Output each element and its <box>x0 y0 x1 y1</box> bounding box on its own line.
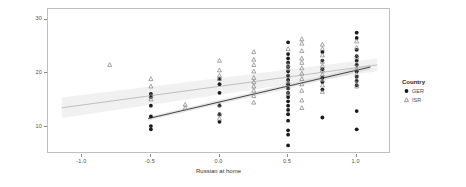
data-point <box>321 116 325 120</box>
data-point <box>300 56 304 60</box>
legend-label: ISR <box>412 97 421 103</box>
legend: Country GERISR <box>402 79 462 105</box>
data-point <box>300 106 304 110</box>
data-point <box>286 57 290 61</box>
data-point <box>286 108 290 112</box>
x-tick-mark <box>287 154 288 157</box>
triangle-icon <box>402 96 411 104</box>
x-tick-mark <box>356 154 357 157</box>
data-point <box>286 99 290 103</box>
data-point <box>217 116 221 120</box>
data-point <box>300 37 304 41</box>
data-point <box>300 88 304 92</box>
data-point <box>320 42 324 46</box>
circle-icon <box>402 87 411 95</box>
legend-items: GERISR <box>402 87 462 104</box>
data-point <box>252 50 256 54</box>
data-point <box>218 82 222 86</box>
legend-label: GER <box>412 88 424 94</box>
y-tick-label: 20 <box>20 69 42 75</box>
data-point <box>108 63 112 67</box>
data-point <box>252 69 256 73</box>
data-point <box>286 133 290 137</box>
data-point <box>252 63 256 67</box>
data-point <box>286 52 290 56</box>
data-point <box>252 100 256 104</box>
data-point <box>149 115 153 119</box>
legend-item-ger[interactable]: GER <box>402 87 462 95</box>
data-point <box>320 83 324 87</box>
y-tick-label: 10 <box>20 123 42 129</box>
x-tick-mark <box>219 154 220 157</box>
data-point <box>252 57 256 61</box>
data-point <box>149 127 153 131</box>
data-point <box>286 128 290 132</box>
x-tick-mark <box>150 154 151 157</box>
data-point <box>286 144 290 148</box>
data-point <box>217 58 221 62</box>
x-tick-label: 1.0 <box>342 158 370 164</box>
y-tick-label: 30 <box>20 15 42 21</box>
data-point <box>286 40 290 44</box>
data-point <box>355 127 359 131</box>
data-point <box>218 91 222 95</box>
data-point <box>286 112 290 116</box>
data-point <box>217 68 221 72</box>
data-point <box>300 61 304 65</box>
data-point <box>286 47 290 51</box>
x-axis-label: Russian at home <box>47 168 390 174</box>
x-tick-label: 0.5 <box>273 158 301 164</box>
x-tick-label: -1.0 <box>67 158 95 164</box>
data-point <box>355 31 359 35</box>
x-tick-label: 0.0 <box>205 158 233 164</box>
data-point <box>149 77 153 81</box>
data-point <box>355 109 359 113</box>
legend-item-isr[interactable]: ISR <box>402 96 462 104</box>
data-point <box>300 49 304 53</box>
plot-panel <box>47 8 390 153</box>
legend-title: Country <box>402 79 462 85</box>
data-point <box>300 41 304 45</box>
data-point <box>355 39 359 43</box>
plot-area <box>48 9 389 152</box>
data-point <box>286 104 290 108</box>
data-point <box>320 47 324 51</box>
data-point <box>320 53 324 57</box>
data-point <box>149 104 153 108</box>
scatter-chart: Noun task (Russian) 102030 -1.0-0.50.00.… <box>0 0 466 187</box>
x-tick-label: -0.5 <box>136 158 164 164</box>
data-point <box>286 119 290 123</box>
data-point <box>300 98 304 102</box>
x-tick-mark <box>81 154 82 157</box>
